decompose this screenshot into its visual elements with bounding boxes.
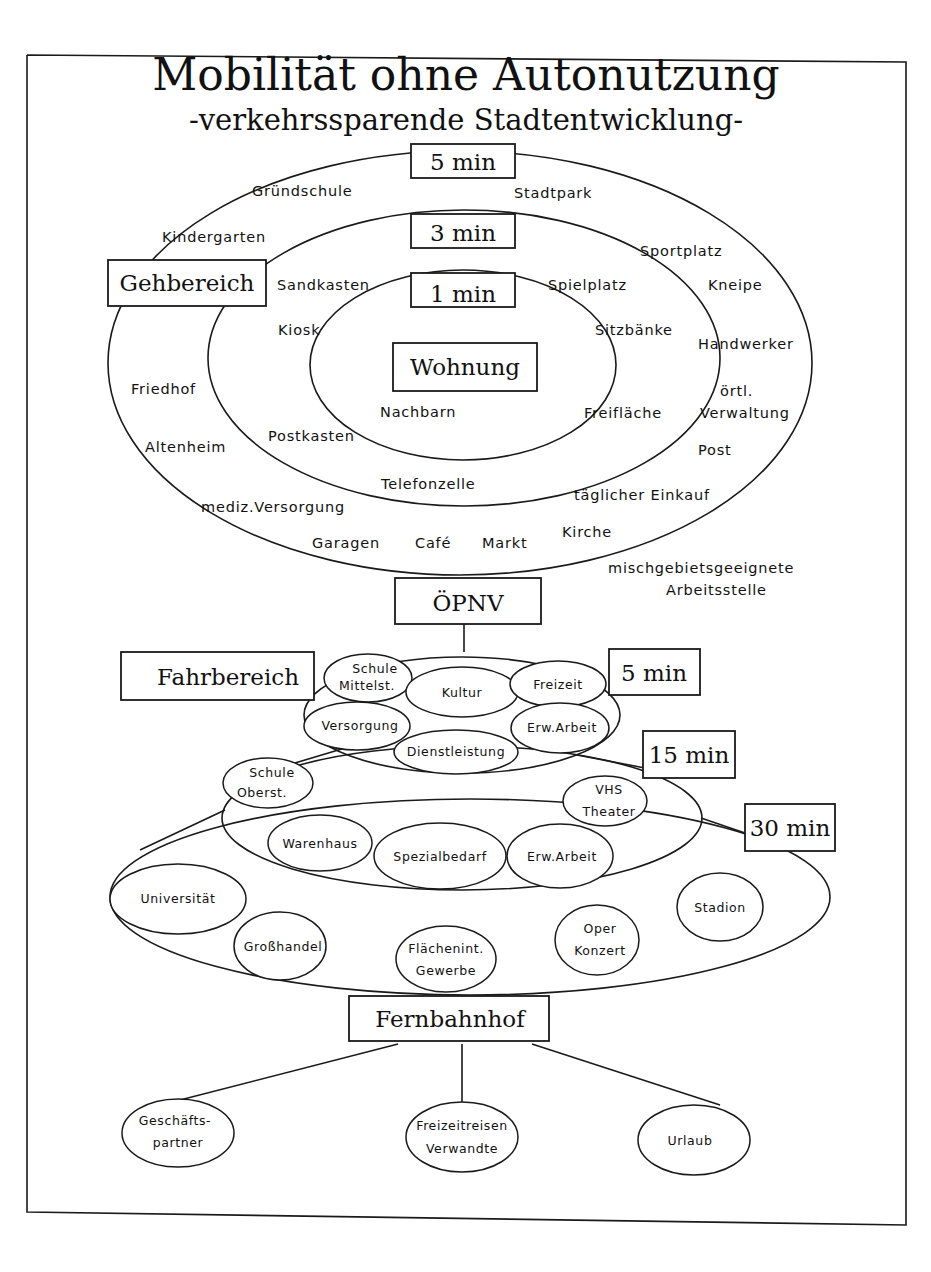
node-schule-oberst-l2: Oberst. xyxy=(237,785,287,800)
node-flaechenint-gewerbe xyxy=(396,926,496,992)
page-title: Mobilität ohne Autonutzung xyxy=(152,49,779,100)
item-freiflaeche: Freifläche xyxy=(584,405,662,421)
time-label-5min-walk: 5 min xyxy=(430,149,496,175)
item-grundschule: Gründschule xyxy=(252,183,352,199)
item-garagen: Garagen xyxy=(312,535,380,551)
node-urlaub-label: Urlaub xyxy=(668,1133,713,1148)
node-versorgung-label: Versorgung xyxy=(321,718,398,733)
node-freizeitreisen-verwandte xyxy=(406,1102,518,1172)
connector-urlaub xyxy=(532,1044,720,1105)
node-vhs-theater-l2: Theater xyxy=(582,804,636,819)
node-kultur-label: Kultur xyxy=(442,685,483,700)
node-erw-arbeit-15-label: Erw.Arbeit xyxy=(527,849,597,864)
node-freizeitreisen-l2: Verwandte xyxy=(426,1141,498,1156)
node-oper-konzert-l1: Oper xyxy=(583,921,616,936)
note-mischgebiet-1: mischgebietsgeeignete xyxy=(608,560,794,576)
connector-15-30-left xyxy=(140,810,225,850)
wohnung-label: Wohnung xyxy=(410,354,520,380)
node-spezialbedarf-label: Spezialbedarf xyxy=(393,849,486,864)
item-cafe: Café xyxy=(415,535,451,551)
node-erw-arbeit-5-label: Erw.Arbeit xyxy=(527,720,597,735)
mobility-diagram: Mobilität ohne Autonutzung -verkehrsspar… xyxy=(0,0,931,1272)
item-friedhof: Friedhof xyxy=(131,381,196,397)
item-kirche: Kirche xyxy=(562,524,612,540)
item-markt: Markt xyxy=(482,535,527,551)
node-universitaet-label: Universität xyxy=(141,891,216,906)
item-sportplatz: Sportplatz xyxy=(640,243,722,259)
node-freizeitreisen-l1: Freizeitreisen xyxy=(416,1118,508,1133)
page-subtitle: -verkehrssparende Stadtentwicklung- xyxy=(189,103,743,137)
item-post: Post xyxy=(698,442,732,458)
item-kindergarten: Kindergarten xyxy=(162,229,266,245)
node-schule-mittelst-l2: Mittelst. xyxy=(339,678,395,693)
item-altenheim: Altenheim xyxy=(145,439,226,455)
node-schule-oberst-l1: Schule xyxy=(249,765,294,780)
connector-geschaeftspartner xyxy=(180,1044,398,1100)
time-label-3min-walk: 3 min xyxy=(430,220,496,246)
node-schule-mittelst-l1: Schule xyxy=(352,661,397,676)
oepnv-label: ÖPNV xyxy=(432,590,503,616)
connector-30min-box xyxy=(701,818,745,833)
node-geschaeftspartner-l1: Geschäfts- xyxy=(139,1113,211,1128)
node-vhs-theater-l1: VHS xyxy=(595,782,623,797)
fernbahnhof-label: Fernbahnhof xyxy=(375,1006,526,1032)
node-grosshandel-label: Großhandel xyxy=(244,939,323,954)
node-oper-konzert xyxy=(555,905,639,975)
item-oertl: örtl. xyxy=(720,383,753,399)
gehbereich-label: Gehbereich xyxy=(120,270,255,296)
time-label-30min-ride: 30 min xyxy=(750,815,831,841)
node-flaechenint-gewerbe-l1: Flächenint. xyxy=(408,941,484,956)
time-label-5min-ride: 5 min xyxy=(621,660,687,686)
item-stadtpark: Stadtpark xyxy=(514,185,592,201)
item-telefonzelle: Telefonzelle xyxy=(380,476,476,492)
item-nachbarn: Nachbarn xyxy=(380,404,456,420)
item-verwaltung: Verwaltung xyxy=(700,405,790,421)
connector-15min-box xyxy=(577,755,645,768)
item-spielplatz: Spielplatz xyxy=(548,277,627,293)
time-label-1min-walk: 1 min xyxy=(430,281,496,307)
node-stadion-label: Stadion xyxy=(694,900,746,915)
node-warenhaus-label: Warenhaus xyxy=(282,836,357,851)
note-mischgebiet-2: Arbeitsstelle xyxy=(666,582,767,598)
node-geschaeftspartner-l2: partner xyxy=(153,1135,204,1150)
fahrbereich-label: Fahrbereich xyxy=(157,664,299,690)
item-taeglicher-einkauf: täglicher Einkauf xyxy=(574,487,710,503)
item-sitzbaenke: Sitzbänke xyxy=(595,322,673,338)
item-mediz-versorgung: mediz.Versorgung xyxy=(201,499,345,515)
node-geschaeftspartner xyxy=(122,1099,234,1167)
node-flaechenint-gewerbe-l2: Gewerbe xyxy=(416,963,476,978)
time-label-15min-ride: 15 min xyxy=(649,742,730,768)
item-postkasten: Postkasten xyxy=(268,428,355,444)
item-kneipe: Kneipe xyxy=(708,277,763,293)
item-handwerker: Handwerker xyxy=(698,336,794,352)
item-kiosk: Kiosk xyxy=(278,322,320,338)
node-oper-konzert-l2: Konzert xyxy=(574,943,626,958)
node-dienstleistung-label: Dienstleistung xyxy=(407,744,505,759)
node-freizeit-label: Freizeit xyxy=(533,677,583,692)
item-sandkasten: Sandkasten xyxy=(277,277,370,293)
